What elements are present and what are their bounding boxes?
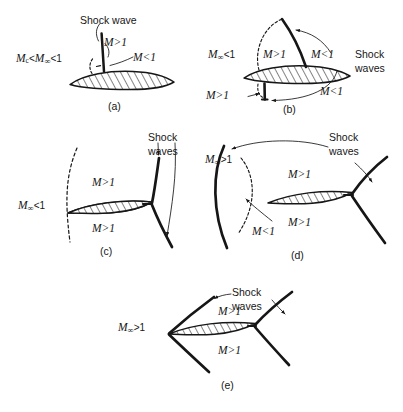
panel-b-region-lower-subsonic: M<1	[320, 85, 343, 99]
airfoil-c-outline	[68, 201, 152, 213]
airfoil-e	[169, 322, 255, 334]
panel-b-freestream-label: M∞<1	[208, 48, 235, 62]
airfoil-a	[70, 71, 174, 89]
panel-e-region-lower: M>1	[218, 344, 241, 358]
panel-c-caption: (c)	[100, 245, 112, 257]
sonic-line-d	[238, 158, 252, 234]
panel-b-caption: (b)	[283, 103, 296, 115]
panel-c-region-lower: M>1	[92, 222, 115, 236]
panel-c-graphics	[67, 143, 176, 247]
panel-e-shock-label-line1: Shock	[232, 286, 261, 298]
panel-d-graphics	[215, 141, 387, 248]
leader-m-lt1-a	[110, 57, 133, 66]
panel-d-caption: (d)	[291, 249, 304, 261]
panel-c-shock-label-line2: waves	[148, 145, 178, 157]
panel-b-region-upper-subsonic: M<1	[311, 48, 334, 62]
panel-a-graphics	[70, 24, 174, 90]
panel-c-freestream-label: M∞<1	[18, 199, 45, 213]
figure-shock-patterns: Shock wave Mc<M∞<1 M>1 M<1 (a) M∞<1 M>1 …	[0, 0, 403, 412]
shock-d-upper	[352, 157, 387, 194]
airfoil-d	[268, 191, 352, 203]
leader-d-bow	[232, 141, 328, 149]
panel-b-region-upper-supersonic: M>1	[263, 48, 286, 62]
panel-a-region-subsonic: M<1	[133, 51, 156, 65]
panel-e-caption: (e)	[221, 379, 234, 391]
panel-e-graphics	[169, 292, 292, 372]
airfoil-b	[244, 66, 350, 84]
shock-c-upper	[152, 158, 159, 203]
panel-e-freestream-label: M∞>1	[118, 321, 145, 335]
panel-c-region-upper: M>1	[92, 176, 115, 190]
panel-b-shock-label-line2: waves	[355, 62, 385, 74]
panel-d-region-lower: M>1	[288, 216, 311, 230]
panel-d-shock-label-line2: waves	[329, 145, 359, 157]
pocket-tick-a	[97, 66, 101, 67]
panel-d-freestream-label: M∞>1	[205, 153, 232, 167]
panel-d-region-subsonic: M<1	[252, 225, 275, 239]
sonic-line-b-lower	[258, 84, 263, 98]
shock-e-te-lower	[255, 327, 289, 365]
shock-e-le-lower	[169, 335, 209, 373]
sonic-line-b-upper	[258, 20, 281, 71]
leader-e-le	[215, 294, 232, 299]
panel-a-region-supersonic: M>1	[104, 36, 127, 50]
sonic-line-a	[90, 58, 94, 74]
panel-e-region-upper: M>1	[218, 305, 241, 319]
sonic-line-c	[67, 148, 77, 242]
panel-c-shock-label-line1: Shock	[148, 131, 177, 143]
leader-b-lowpocket	[248, 94, 260, 97]
panel-b-shock-label-line1: Shock	[355, 48, 384, 60]
panel-a-caption: (a)	[108, 100, 121, 112]
panel-d-region-upper: M>1	[288, 168, 311, 182]
panel-b-region-lower-supersonic: M>1	[206, 89, 229, 103]
panel-d-shock-label-line1: Shock	[329, 131, 358, 143]
shock-d-lower	[352, 196, 385, 243]
panel-a-shock-label: Shock wave	[80, 14, 137, 26]
panel-a-freestream-label: Mc<M∞<1	[16, 52, 62, 66]
